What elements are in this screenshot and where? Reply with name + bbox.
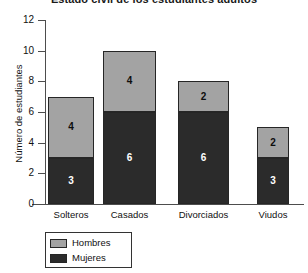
legend-item-hombres: Hombres <box>50 236 131 250</box>
bar-segment-hombres[interactable]: 4 <box>103 51 156 112</box>
legend-label-hombres: Hombres <box>72 238 111 248</box>
y-tick-label: 4 <box>0 138 34 148</box>
x-axis-label-viudos: Viudos <box>233 209 308 220</box>
bar-value-label: 6 <box>127 153 133 163</box>
y-tick-label: 6 <box>0 107 34 117</box>
bar-value-label: 4 <box>68 122 74 132</box>
y-tick-mark <box>38 20 45 21</box>
bar-stack-divorciados[interactable]: 26 <box>178 81 229 204</box>
y-tick-mark <box>38 173 45 174</box>
y-tick-mark <box>38 81 45 82</box>
x-axis-line <box>32 204 304 205</box>
y-tick-label: 10 <box>0 46 34 56</box>
y-tick-label: 8 <box>0 76 34 86</box>
x-axis-label-divorciados: Divorciados <box>164 209 244 220</box>
legend: Hombres Mujeres <box>45 232 132 268</box>
y-tick-mark <box>38 112 45 113</box>
bar-chart: Estado civil de los estudiantes adultos … <box>0 0 308 273</box>
hombres-swatch-icon <box>50 239 67 248</box>
y-tick-label: 0 <box>0 199 34 209</box>
legend-item-mujeres: Mujeres <box>50 251 131 265</box>
bar-segment-hombres[interactable]: 2 <box>257 127 289 158</box>
y-tick-mark <box>38 143 45 144</box>
bar-stack-casados[interactable]: 46 <box>103 51 156 204</box>
y-tick-label: 2 <box>0 168 34 178</box>
bar-segment-mujeres[interactable]: 6 <box>103 112 156 204</box>
bar-value-label: 3 <box>270 176 276 186</box>
bar-value-label: 2 <box>201 92 207 102</box>
bar-stack-viudos[interactable]: 23 <box>257 127 289 204</box>
bar-value-label: 6 <box>201 153 207 163</box>
x-axis-label-casados: Casados <box>90 209 170 220</box>
bar-value-label: 4 <box>127 76 133 86</box>
y-tick-mark <box>38 51 45 52</box>
bar-segment-hombres[interactable]: 4 <box>48 97 94 158</box>
y-axis-line <box>45 20 46 205</box>
y-tick-mark <box>38 204 45 205</box>
mujeres-swatch-icon <box>50 254 67 263</box>
bar-value-label: 3 <box>68 176 74 186</box>
bar-segment-mujeres[interactable]: 3 <box>257 158 289 204</box>
bar-segment-mujeres[interactable]: 6 <box>178 112 229 204</box>
bar-stack-solteros[interactable]: 43 <box>48 97 94 204</box>
bar-value-label: 2 <box>270 138 276 148</box>
bar-segment-mujeres[interactable]: 3 <box>48 158 94 204</box>
legend-label-mujeres: Mujeres <box>72 253 106 263</box>
chart-title: Estado civil de los estudiantes adultos <box>0 0 308 5</box>
bar-segment-hombres[interactable]: 2 <box>178 81 229 112</box>
y-tick-label: 12 <box>0 15 34 25</box>
